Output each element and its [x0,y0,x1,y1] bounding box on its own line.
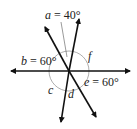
angle-diagram: a = 40° b = 60° c d e = 60° f [0,0,137,129]
label-f: f [88,49,93,63]
label-d: d [68,87,75,101]
label-b: b = 60° [21,54,57,68]
label-c: c [48,83,54,97]
diagram-canvas: a = 40° b = 60° c d e = 60° f [0,0,137,129]
steep-line-up [69,19,79,71]
label-a: a = 40° [45,8,81,22]
label-e: e = 60° [84,75,119,89]
